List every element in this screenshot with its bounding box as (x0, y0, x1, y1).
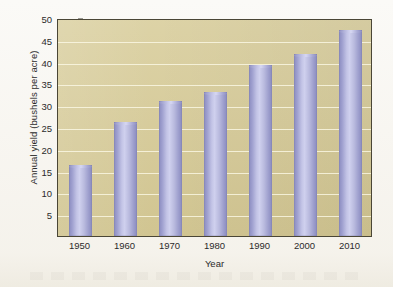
gridline (58, 64, 371, 65)
bar-top-cap (69, 165, 92, 168)
bar (69, 165, 92, 236)
y-axis-tick-label: 45 (26, 35, 52, 46)
x-axis-tick-label: 1980 (191, 240, 239, 251)
x-axis-tick-label: 2000 (281, 240, 329, 251)
y-axis-tick-label: 35 (26, 79, 52, 90)
bar-top-cap (204, 92, 227, 95)
bar-top-cap (114, 122, 137, 125)
bar (249, 65, 272, 236)
x-axis-tick-label: 1970 (146, 240, 194, 251)
bar (159, 101, 182, 236)
gridline (58, 42, 371, 43)
y-axis-tick-label: 5 (26, 210, 52, 221)
x-axis-tick-label: 2010 (326, 240, 374, 251)
gridline (58, 85, 371, 86)
y-axis-tick-label: 10 (26, 188, 52, 199)
x-axis-tick-label: 1990 (236, 240, 284, 251)
bar-top-cap (249, 65, 272, 68)
x-axis-title: Year (57, 258, 372, 269)
y-axis-tick-label: 15 (26, 166, 52, 177)
bar (204, 92, 227, 236)
bar (294, 54, 317, 236)
bar (339, 30, 362, 236)
bar-top-cap (294, 54, 317, 57)
plot-area (57, 19, 372, 237)
bar-chart: Annual yield (bushels per acre) 51015202… (0, 0, 393, 287)
bar-top-cap (159, 101, 182, 104)
x-axis-tick-label: 1950 (56, 240, 104, 251)
y-axis-tick-label: 30 (26, 101, 52, 112)
x-axis-tick-label: 1960 (101, 240, 149, 251)
y-axis-tick-labels: 5101520253035404550 (26, 19, 52, 237)
bar-top-cap (339, 30, 362, 33)
x-axis-tick-labels: 1950196019701980199020002010 (57, 240, 372, 256)
y-axis-tick-label: 40 (26, 57, 52, 68)
y-axis-tick-label: 50 (26, 14, 52, 25)
y-axis-tick-label: 20 (26, 144, 52, 155)
bar (114, 122, 137, 236)
y-axis-tick-label: 25 (26, 123, 52, 134)
